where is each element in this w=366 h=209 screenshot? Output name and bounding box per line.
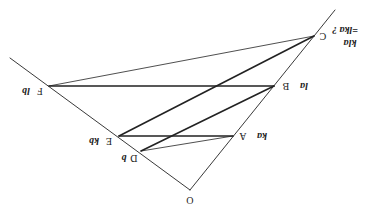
vector-d-label: b	[122, 153, 127, 164]
svg-text:E: E	[106, 136, 112, 147]
vector-e-label: kb	[89, 136, 99, 147]
point-b-label: B	[282, 81, 289, 92]
point-f-label: F	[37, 86, 43, 97]
vector-f-label: lb	[22, 86, 30, 97]
point-o-label: O	[186, 195, 193, 206]
point-c-label: C	[319, 31, 326, 42]
svg-text:=lka ?: =lka ?	[332, 25, 358, 36]
vector-a-label: ka	[257, 131, 267, 142]
point-d-label: D	[130, 153, 137, 164]
svg-text:ka: ka	[257, 131, 267, 142]
svg-text:A: A	[239, 131, 247, 142]
svg-text:kb: kb	[89, 136, 99, 147]
vector-c-label-2: =lka ?	[332, 25, 358, 36]
svg-text:lb: lb	[22, 86, 30, 97]
svg-text:F: F	[37, 86, 43, 97]
vector-c-label: kla	[344, 38, 357, 49]
svg-text:B: B	[282, 81, 289, 92]
point-a-label: A	[239, 131, 247, 142]
segment-fc	[49, 36, 314, 86]
vector-b-label: la	[300, 81, 308, 92]
segment-db	[141, 86, 274, 151]
svg-text:D: D	[130, 153, 137, 164]
svg-text:la: la	[300, 81, 308, 92]
vector-scaling-diagram: O A ka B la C kla =lka ? D b E kb F lb	[0, 0, 366, 209]
svg-text:C: C	[319, 31, 326, 42]
svg-text:b: b	[122, 153, 127, 164]
svg-text:kla: kla	[344, 38, 357, 49]
ray-ob	[10, 58, 190, 190]
svg-text:O: O	[186, 195, 193, 206]
point-e-label: E	[106, 136, 112, 147]
